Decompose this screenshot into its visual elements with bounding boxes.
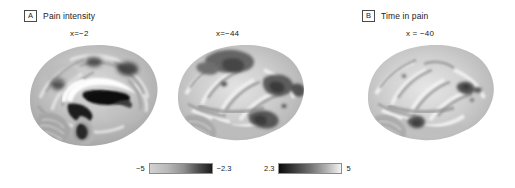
slice-coordinate-a1: x=−2 [70,29,89,38]
panel-b-title: Time in pain [381,11,428,21]
colorbar-negative-max-label: −2.3 [217,162,232,175]
colorbar-positive-gradient [278,163,342,174]
panel-a-label: A Pain intensity [24,10,95,22]
panel-a-title: Pain intensity [43,11,95,21]
slice-coordinate-b1: x = −40 [406,29,434,38]
panel-b-label: B Time in pain [362,10,428,22]
panel-b-letter: B [362,10,375,22]
colorbar-negative-min-label: −5 [136,162,145,175]
colorbar-negative: −5 −2.3 [136,162,231,175]
colorbar-positive: 2.3 5 [264,162,351,175]
panel-a-letter: A [24,10,37,22]
brain-slice-b1-lateral [358,40,500,150]
colorbar-negative-gradient [149,163,213,174]
brain-slice-a2-lateral [168,40,310,150]
neuroimaging-figure: A Pain intensity B Time in pain x=−2 x=−… [0,0,515,188]
colorbar-positive-min-label: 2.3 [264,162,274,175]
brain-slice-a1-midsagittal [22,40,164,150]
slice-coordinate-a2: x=−44 [216,29,239,38]
colorbar-positive-max-label: 5 [346,162,350,175]
